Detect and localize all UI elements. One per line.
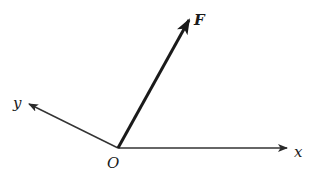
y-axis-label: y — [12, 94, 22, 112]
force-vector-f — [118, 20, 189, 148]
y-axis — [29, 104, 118, 148]
origin-label: O — [107, 154, 119, 172]
force-diagram: O x y F — [0, 0, 316, 188]
force-label: F — [193, 11, 206, 29]
x-axis-label: x — [294, 143, 303, 161]
